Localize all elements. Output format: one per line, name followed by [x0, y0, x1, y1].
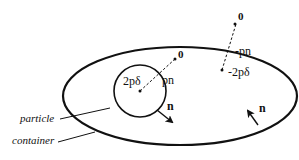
container-ellipse	[63, 47, 297, 145]
outer-minus-pn-label: -pn	[235, 44, 251, 58]
outer-zero-dot	[234, 23, 237, 26]
particle-label: particle	[19, 112, 54, 124]
inner-zero-dot	[174, 58, 177, 61]
outer-dashed-line	[222, 24, 236, 70]
outer-normal-arrow	[248, 111, 258, 125]
container-leader-line	[58, 132, 95, 142]
inner-zero-label: 0	[178, 48, 184, 60]
outer-zero-label: 0	[238, 10, 244, 22]
inner-pn-label: pn	[162, 73, 174, 87]
inner-2pdelta-label: 2pδ	[123, 74, 141, 88]
inner-center-dot	[139, 90, 142, 93]
container-label: container	[12, 134, 55, 146]
outer-n-label: n	[259, 101, 266, 115]
outer-minus-2pdelta-label: -2pδ	[228, 65, 250, 79]
inner-n-label: n	[167, 99, 174, 113]
particle-container-diagram: 0 2pδ pn n 0 -pn -2pδ n particle contain…	[0, 0, 299, 160]
outer-minus-2pdelta-dot	[221, 69, 224, 72]
